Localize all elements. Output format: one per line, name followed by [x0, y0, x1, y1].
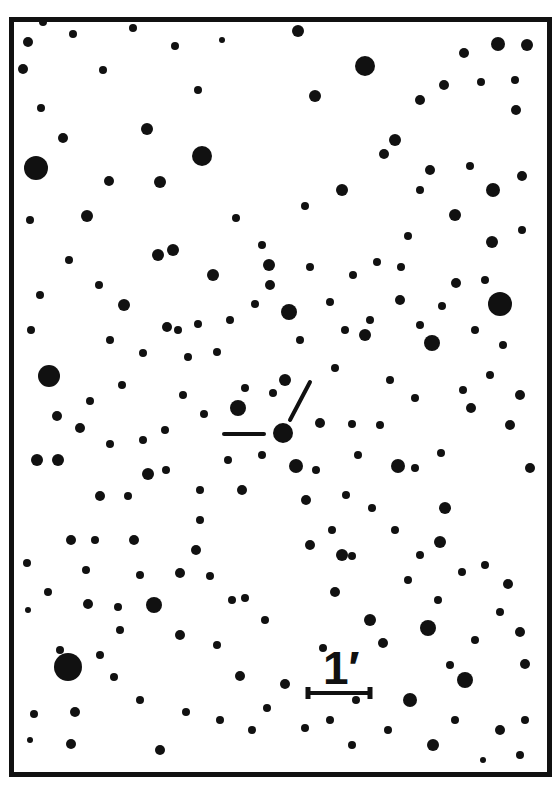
star	[265, 280, 275, 290]
star	[486, 183, 500, 197]
target-star-icon	[273, 423, 293, 443]
star	[81, 210, 93, 222]
star	[305, 540, 315, 550]
star	[389, 134, 401, 146]
star	[206, 572, 214, 580]
star	[397, 263, 405, 271]
star	[486, 236, 498, 248]
star	[118, 299, 130, 311]
star	[404, 232, 412, 240]
star	[155, 745, 165, 755]
star	[261, 616, 269, 624]
star	[503, 579, 513, 589]
star	[27, 326, 35, 334]
star	[237, 485, 247, 495]
star	[457, 672, 473, 688]
star	[118, 381, 126, 389]
star	[446, 661, 454, 669]
star	[179, 391, 187, 399]
star	[477, 78, 485, 86]
star	[416, 186, 424, 194]
star	[37, 104, 45, 112]
star	[296, 336, 304, 344]
star	[192, 146, 212, 166]
star	[352, 696, 360, 704]
star	[355, 56, 375, 76]
star	[114, 603, 122, 611]
star	[23, 559, 31, 567]
star	[96, 651, 104, 659]
star	[281, 304, 297, 320]
star	[228, 596, 236, 604]
star	[481, 276, 489, 284]
star	[139, 436, 147, 444]
star	[142, 468, 154, 480]
star	[451, 278, 461, 288]
star	[359, 329, 371, 341]
star	[439, 502, 451, 514]
marker-line	[290, 382, 310, 420]
star	[241, 384, 249, 392]
star	[292, 25, 304, 37]
star	[403, 693, 417, 707]
star	[66, 535, 76, 545]
scale-label: 1′	[323, 645, 360, 691]
star	[466, 162, 474, 170]
star	[279, 374, 291, 386]
star	[518, 226, 526, 234]
star	[520, 659, 530, 669]
star	[495, 725, 505, 735]
star	[368, 504, 376, 512]
star	[219, 37, 225, 43]
star	[36, 291, 44, 299]
star	[511, 76, 519, 84]
star	[136, 571, 144, 579]
star	[301, 495, 311, 505]
star	[364, 614, 376, 626]
star	[25, 607, 31, 613]
star	[24, 156, 48, 180]
star	[194, 86, 202, 94]
star	[424, 335, 440, 351]
star	[52, 411, 62, 421]
star	[248, 726, 256, 734]
star	[95, 491, 105, 501]
star	[330, 587, 340, 597]
star	[315, 418, 325, 428]
star	[336, 184, 348, 196]
star	[326, 716, 334, 724]
star	[226, 316, 234, 324]
star	[251, 300, 259, 308]
star	[136, 696, 144, 704]
star	[386, 376, 394, 384]
star	[348, 552, 356, 560]
star	[434, 596, 442, 604]
star	[516, 751, 524, 759]
star	[411, 394, 419, 402]
star	[349, 271, 357, 279]
star	[312, 466, 320, 474]
star	[342, 491, 350, 499]
star	[420, 620, 436, 636]
star	[162, 466, 170, 474]
star	[505, 420, 515, 430]
star	[196, 516, 204, 524]
star	[216, 716, 224, 724]
star	[235, 671, 245, 681]
star	[306, 263, 314, 271]
star	[480, 757, 486, 763]
star-field-chart	[0, 0, 556, 789]
star	[194, 320, 202, 328]
star	[496, 608, 504, 616]
star	[66, 739, 76, 749]
star	[449, 209, 461, 221]
star	[439, 80, 449, 90]
star	[26, 216, 34, 224]
star	[416, 321, 424, 329]
star	[139, 349, 147, 357]
star	[348, 741, 356, 749]
star	[376, 421, 384, 429]
star	[129, 24, 137, 32]
star	[416, 551, 424, 559]
star	[154, 176, 166, 188]
